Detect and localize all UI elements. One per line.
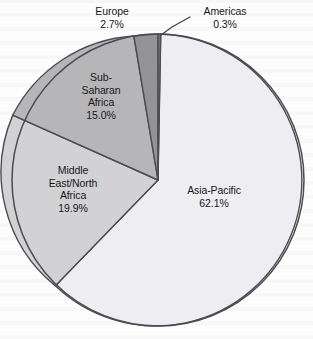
pie-label-asia-pacific: Asia-Pacific 62.1% — [166, 184, 262, 209]
pie-label-sub-saharan-africa: Sub- Saharan Africa 15.0% — [66, 71, 136, 121]
pie-label-americas: Americas 0.3% — [186, 5, 264, 30]
pie-chart-figure: Europe 2.7% Americas 0.3% Sub- Saharan A… — [0, 0, 313, 339]
pie-label-europe: Europe 2.7% — [78, 5, 146, 30]
pie-label-middle-east-north-africa: Middle East/North Africa 19.9% — [25, 164, 121, 214]
